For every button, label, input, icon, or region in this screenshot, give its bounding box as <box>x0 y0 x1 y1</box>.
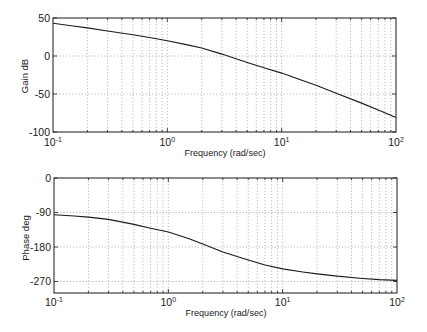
x-tick-label-exponent: 2 <box>401 296 405 303</box>
bode-figure: 500-50-10010-1100101102Frequency (rad/se… <box>0 0 427 332</box>
x-tick-label: 100 <box>161 296 177 309</box>
x-tick-label: 101 <box>275 296 291 309</box>
x-tick-label: 101 <box>274 136 290 149</box>
x-tick-label-base: 10 <box>45 296 57 308</box>
x-tick-label-exponent: 0 <box>171 136 175 143</box>
y-tick-label: -50 <box>35 88 50 100</box>
phase-x-axis-label: Frequency (rad/sec) <box>186 307 267 318</box>
x-tick-label-base: 10 <box>388 136 400 148</box>
bode-plot-canvas: 500-50-10010-1100101102Frequency (rad/se… <box>0 0 427 332</box>
x-tick-label: 102 <box>389 296 405 309</box>
y-tick-label: 0 <box>45 172 51 184</box>
x-tick-label-exponent: -1 <box>57 296 63 303</box>
x-tick-label-exponent: 0 <box>172 296 176 303</box>
y-tick-label: 50 <box>38 12 50 24</box>
x-tick-label-base: 10 <box>44 136 56 148</box>
x-tick-label: 102 <box>388 136 404 149</box>
x-tick-label-base: 10 <box>160 136 172 148</box>
gain-curve <box>53 23 396 117</box>
gain-x-axis-label: Frequency (rad/sec) <box>185 147 266 158</box>
y-tick-label: 0 <box>44 50 50 62</box>
phase-plot: 0-90-180-27010-1100101102Frequency (rad/… <box>20 172 405 318</box>
x-tick-label-exponent: 1 <box>287 296 291 303</box>
phase-grid <box>54 178 397 293</box>
gain-axes-box <box>53 18 396 132</box>
gain-plot: 500-50-10010-1100101102Frequency (rad/se… <box>19 12 404 158</box>
y-tick-label: -90 <box>36 206 51 218</box>
x-tick-label-base: 10 <box>161 296 173 308</box>
x-tick-label-exponent: 2 <box>400 136 404 143</box>
x-tick-label: 10-1 <box>44 136 62 149</box>
gain-y-axis-label: Gain dB <box>19 59 30 93</box>
phase-y-axis-label: Phase deg <box>20 215 31 260</box>
y-tick-label: -270 <box>30 275 51 287</box>
x-tick-label: 100 <box>160 136 176 149</box>
gain-grid <box>53 18 396 132</box>
phase-axes-box <box>54 178 397 293</box>
phase-curve <box>54 215 397 281</box>
x-tick-label-base: 10 <box>389 296 401 308</box>
x-tick-label-exponent: -1 <box>56 136 62 143</box>
x-tick-label-exponent: 1 <box>286 136 290 143</box>
x-tick-label: 10-1 <box>45 296 63 309</box>
x-tick-label-base: 10 <box>274 136 286 148</box>
x-tick-label-base: 10 <box>275 296 287 308</box>
y-tick-label: -180 <box>30 241 51 253</box>
